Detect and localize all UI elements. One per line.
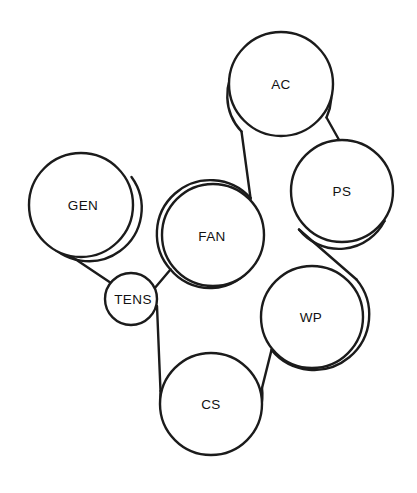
pulley-ps-label: PS [333, 184, 352, 199]
pulley-tens[interactable]: TENS [105, 273, 157, 325]
pulley-group: AC PS GEN FAN TENS WP [29, 32, 393, 455]
pulley-fan-label: FAN [198, 229, 225, 244]
belt-segment-cs-to-tens [157, 306, 161, 391]
belt-diagram-canvas: AC PS GEN FAN TENS WP [0, 0, 417, 493]
pulley-cs[interactable]: CS [160, 353, 262, 455]
pulley-wp[interactable]: WP [261, 266, 363, 368]
pulley-tens-label: TENS [114, 292, 152, 307]
pulley-ac-label: AC [271, 77, 291, 92]
belt-segment-wp-to-cs [262, 350, 272, 388]
belt-segment-fan-to-ac [242, 132, 251, 199]
belt-segment-tens-to-fan [154, 270, 171, 290]
pulley-gen-label: GEN [68, 198, 98, 213]
belt-routing-diagram: AC PS GEN FAN TENS WP [0, 0, 417, 493]
pulley-fan[interactable]: FAN [162, 184, 264, 286]
pulley-ac[interactable]: AC [229, 32, 333, 136]
pulley-gen[interactable]: GEN [29, 153, 133, 257]
pulley-wp-label: WP [300, 310, 323, 325]
pulley-ps[interactable]: PS [291, 140, 393, 242]
pulley-cs-label: CS [201, 397, 221, 412]
